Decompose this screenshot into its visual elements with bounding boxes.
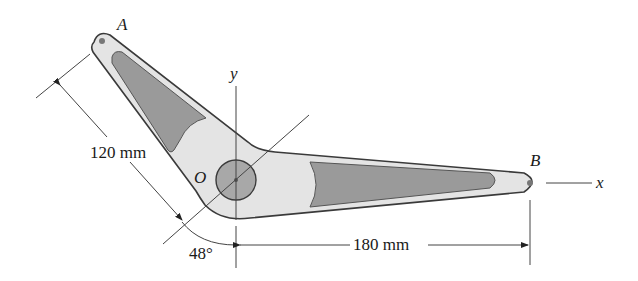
label-180mm: 180 mm	[353, 235, 409, 254]
label-y-axis: y	[228, 64, 238, 83]
bell-crank-diagram: A B O y x 120 mm 180 mm 48°	[0, 0, 638, 281]
label-120mm: 120 mm	[90, 143, 146, 162]
bell-crank-body	[92, 34, 533, 219]
angle-arc	[182, 222, 236, 245]
label-x-axis: x	[595, 173, 604, 192]
label-angle-48: 48°	[189, 244, 213, 263]
pin-b	[527, 180, 533, 186]
label-point-b: B	[530, 151, 541, 170]
label-point-o: O	[194, 168, 206, 187]
diagram-canvas: A B O y x 120 mm 180 mm 48°	[0, 0, 638, 281]
label-point-a: A	[116, 15, 128, 34]
pin-a	[99, 38, 105, 44]
